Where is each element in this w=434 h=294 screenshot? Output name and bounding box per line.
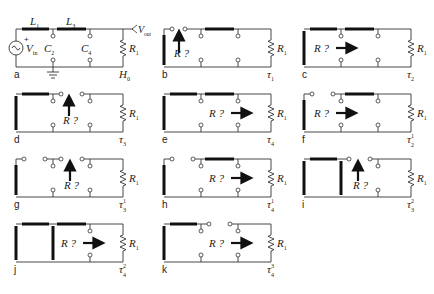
terminal-circle: [368, 157, 372, 161]
cap-terminal-bottom: [199, 253, 203, 257]
panel-tag: τ34: [267, 263, 274, 278]
cap-terminal-top: [339, 99, 343, 103]
cap-terminal-top: [199, 99, 203, 103]
resistor-zigzag: [268, 235, 274, 251]
cap-terminal-top: [199, 229, 203, 233]
query-label: R ?: [208, 107, 224, 119]
terminal-circle: [80, 92, 84, 96]
circuit-figure: L1L3+VinC2C4R1VoutaH0R ?R1bτ1R1R ?cτ2R ?…: [0, 0, 434, 294]
cap-terminal-top: [376, 164, 380, 168]
terminal-circle: [80, 157, 84, 161]
cap-terminal-bottom: [51, 123, 55, 127]
cap-terminal-top: [376, 99, 380, 103]
cap-terminal-top: [339, 34, 343, 38]
resistor-zigzag: [268, 40, 274, 56]
query-label: R ?: [62, 114, 78, 126]
cap-terminal-bottom: [88, 253, 92, 257]
query-label: R ?: [173, 47, 189, 59]
resistor-label: R1: [416, 172, 427, 186]
panel-i: R ?R1iτ23: [302, 157, 427, 213]
cap-terminal-bottom: [376, 58, 380, 62]
panel-letter: f: [302, 134, 305, 145]
cap-terminal-bottom: [236, 253, 240, 257]
panel-tag: τ12: [407, 133, 414, 148]
cap-terminal-bottom: [199, 188, 203, 192]
resistor-zigzag: [408, 105, 414, 121]
cap-terminal-top: [236, 164, 240, 168]
terminal-circle: [59, 157, 63, 161]
resistor-label: R1: [128, 107, 139, 121]
cap-terminal-top: [376, 34, 380, 38]
terminal-circle: [183, 27, 187, 31]
resistor-zigzag: [408, 170, 414, 186]
cap-terminal-bottom: [236, 188, 240, 192]
panel-b: R ?R1bτ1: [162, 27, 287, 82]
cap-terminal-top: [236, 34, 240, 38]
panel-d: R ?R1dτ3: [14, 92, 139, 147]
panel-c: R1R ?cτ2: [302, 29, 427, 82]
panel-h: R1R ?hτ14: [162, 157, 287, 213]
panel-tag: τ24: [119, 263, 126, 278]
query-label: R ?: [352, 179, 368, 191]
resistor-label: R1: [276, 107, 287, 121]
cap-terminal-top: [199, 34, 203, 38]
resistor-label: R1: [276, 172, 287, 186]
panel-j: R ?R1jτ24: [13, 224, 139, 278]
cap-c2-label: C2: [44, 42, 54, 56]
resistor-label: R1: [416, 42, 427, 56]
cap-terminal-bottom: [376, 123, 380, 127]
query-label: R ?: [208, 172, 224, 184]
resistor-zigzag: [268, 105, 274, 121]
cap-terminal-bottom: [51, 58, 55, 62]
inductor-l1-label: L1: [29, 15, 39, 29]
panel-tag: τ1: [267, 68, 274, 82]
inductor-l3-label: L3: [65, 15, 75, 29]
terminal-circle: [43, 157, 47, 161]
cap-terminal-bottom: [199, 58, 203, 62]
cap-terminal-top: [51, 34, 55, 38]
cap-terminal-bottom: [88, 58, 92, 62]
cap-terminal-bottom: [236, 58, 240, 62]
terminal-circle: [22, 157, 26, 161]
source-label: Vin: [26, 42, 37, 56]
resistor-label: R1: [276, 42, 287, 56]
resistor-label: R1: [128, 237, 139, 251]
cap-c4-label: C4: [81, 42, 91, 56]
resistor-zigzag: [268, 170, 274, 186]
resistor-zigzag: [120, 235, 126, 251]
resistor-zigzag: [120, 40, 126, 56]
query-label: R ?: [60, 237, 76, 249]
resistor-label: R1: [416, 107, 427, 121]
panel-tag: τ2: [407, 68, 414, 82]
query-label: R ?: [313, 42, 329, 54]
resistor-zigzag: [120, 105, 126, 121]
panel-letter: b: [162, 69, 168, 80]
resistor-label: R1: [128, 172, 139, 186]
panel-letter: e: [162, 134, 168, 145]
panel-a: L1L3+VinC2C4R1VoutaH0: [9, 15, 152, 82]
panel-tag: τ4: [267, 133, 274, 147]
cap-terminal-bottom: [88, 123, 92, 127]
panel-letter: g: [14, 199, 20, 210]
panel-g: R ?R1gτ13: [14, 157, 139, 213]
panel-letter: k: [162, 264, 168, 275]
query-label: R ?: [63, 179, 79, 191]
resistor-label: R1: [276, 237, 287, 251]
panel-letter: i: [302, 199, 304, 210]
terminal-circle: [191, 157, 195, 161]
cap-terminal-top: [236, 229, 240, 233]
panel-tag: τ3: [119, 133, 126, 147]
cap-terminal-bottom: [51, 188, 55, 192]
panel-tag: τ14: [267, 198, 274, 213]
terminal-circle: [228, 222, 232, 226]
cap-terminal-bottom: [88, 188, 92, 192]
terminal-circle: [59, 92, 63, 96]
query-label: R ?: [313, 107, 329, 119]
cap-terminal-top: [236, 99, 240, 103]
cap-terminal-bottom: [236, 123, 240, 127]
panel-letter: d: [14, 134, 20, 145]
panel-tag: τ23: [407, 198, 414, 213]
panel-letter: a: [14, 69, 20, 80]
terminal-circle: [170, 27, 174, 31]
panel-f: R1R ?fτ12: [302, 92, 427, 148]
